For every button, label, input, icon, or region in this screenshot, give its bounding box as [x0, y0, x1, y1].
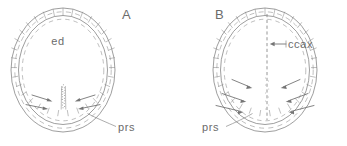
inner-wall-outline	[221, 16, 310, 125]
arrow-left-2	[222, 94, 246, 104]
panel-a-epidermal-cells	[11, 8, 115, 116]
panel-a: A ed prs	[11, 7, 135, 133]
panel-a-letter: A	[122, 7, 131, 22]
arrow-right-3	[289, 106, 314, 115]
panel-a-central-column	[61, 84, 66, 109]
panel-b-label-prs: prs	[202, 121, 219, 133]
panel-b-epidermis-ring	[213, 8, 317, 132]
figure-container: A ed prs	[0, 0, 347, 146]
panel-a-label-prs: prs	[118, 121, 135, 133]
panel-a-label-ed: ed	[51, 35, 64, 47]
outer-wall-outline	[11, 8, 115, 132]
outer-wall-outline	[213, 8, 317, 132]
arrow-right-1	[281, 80, 300, 89]
panel-a-epidermis-ring	[11, 8, 115, 132]
panel-b-epidermal-cells	[213, 8, 317, 116]
panel-b-axis-stipple	[265, 78, 269, 110]
cross-section-figure: A ed prs	[0, 0, 347, 146]
arrow-left-upper	[32, 95, 52, 101]
panel-b-arrows	[216, 80, 314, 115]
panel-a-outer-cell-band	[15, 12, 111, 128]
arrow-right-2	[286, 94, 308, 104]
panel-b-ccax-pointer	[270, 41, 286, 48]
panel-b-letter: B	[215, 7, 224, 22]
panel-b-outer-cell-band	[217, 12, 313, 128]
arrow-left-1	[232, 80, 252, 89]
panel-b-label-ccax: ccax	[288, 38, 313, 50]
panel-b: B ccax prs	[202, 7, 317, 133]
panel-a-prs-leader	[88, 114, 117, 127]
arrow-right-upper	[75, 95, 95, 101]
